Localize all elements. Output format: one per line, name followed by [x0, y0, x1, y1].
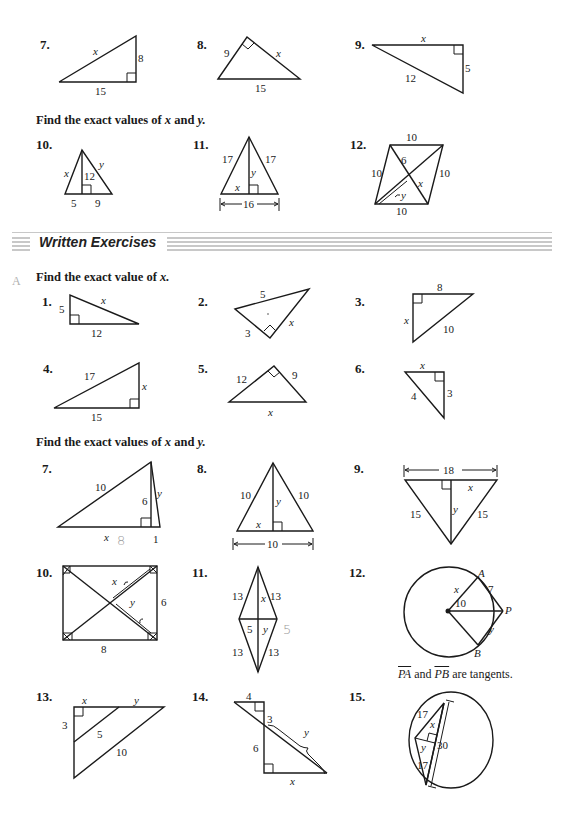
svg-text:x: x [419, 359, 425, 371]
triangle-diagram-9: 18 x 15 15 y [404, 464, 497, 544]
svg-text:8: 8 [437, 281, 443, 293]
triangle-diagram-3: 8 x 10 [403, 281, 473, 342]
svg-text:y: y [303, 726, 309, 738]
svg-text:10: 10 [95, 481, 107, 493]
svg-text:x: x [267, 406, 273, 418]
svg-text:x: x [81, 694, 87, 706]
svg-text:8: 8 [117, 533, 125, 548]
triangle-diagram-14: 4 3 6 y x [234, 690, 327, 787]
svg-text:x: x [429, 718, 435, 730]
svg-text:7: 7 [488, 583, 494, 595]
svg-text:x: x [234, 181, 240, 193]
svg-text:y: y [98, 158, 104, 170]
svg-text:13: 13 [232, 590, 244, 602]
svg-text:x: x [417, 177, 423, 189]
svg-text:10: 10 [406, 131, 418, 143]
svg-text:10: 10 [267, 538, 279, 550]
problem-number: 1. [42, 294, 52, 310]
svg-text:5: 5 [59, 303, 65, 315]
svg-text:17: 17 [222, 153, 234, 165]
svg-text:10: 10 [240, 489, 252, 501]
svg-text:5: 5 [465, 62, 471, 74]
conj: and [174, 435, 194, 449]
problem-number: 14. [192, 689, 208, 705]
svg-text:y: y [262, 623, 268, 635]
triangle-diagram-1: 5 x 12 [59, 294, 139, 339]
triangle-diagram-2: 5 3 x [235, 288, 309, 339]
svg-text:5: 5 [247, 623, 253, 635]
problem-number: 6. [355, 361, 365, 377]
svg-text:5: 5 [283, 622, 291, 637]
svg-text:12: 12 [236, 373, 247, 385]
svg-text:B: B [474, 647, 481, 659]
triangle-diagram-top-11: 17 17 y x 16 [220, 137, 279, 211]
svg-text:A: A [477, 567, 485, 579]
svg-text:4: 4 [246, 690, 252, 702]
problem-number: 15. [349, 689, 365, 705]
svg-text:3: 3 [447, 387, 453, 399]
var-x: x [165, 435, 171, 449]
banner-rule [12, 232, 552, 233]
section-title: Written Exercises [39, 234, 156, 250]
svg-text:9: 9 [224, 47, 230, 59]
svg-text:y: y [452, 503, 458, 515]
svg-text:12: 12 [405, 72, 416, 84]
svg-text:y: y [133, 694, 139, 706]
caption-rest: are tangents. [452, 667, 513, 681]
circle-tangent-diagram-12: A B P x 7 10 10 y [404, 567, 512, 659]
svg-text:6: 6 [253, 742, 259, 754]
svg-text:10: 10 [455, 597, 467, 609]
svg-text:x: x [141, 380, 147, 392]
svg-text:x: x [467, 481, 473, 493]
svg-text:8: 8 [101, 643, 107, 655]
svg-text:y: y [156, 487, 162, 499]
svg-text:30: 30 [437, 739, 449, 751]
problem-number: 4. [43, 361, 53, 377]
svg-text:5: 5 [260, 288, 266, 300]
svg-text:15: 15 [91, 411, 103, 423]
instruction-text: Find the exact values of x and y. [36, 435, 206, 450]
figure-caption: PA and PB are tangents. [398, 667, 513, 682]
instruction-label: Find the exact value of [36, 270, 157, 284]
conj: and [414, 667, 431, 681]
svg-text:13: 13 [232, 646, 244, 658]
kite-diagram-11: 13 13 13 13 x 5 y 5 [232, 567, 291, 672]
svg-text:10: 10 [396, 205, 408, 217]
triangle-diagram-top-9: x 5 12 [372, 32, 471, 93]
svg-text:x: x [420, 32, 426, 44]
svg-text:y: y [250, 166, 256, 178]
var-x: x [165, 113, 171, 127]
triangle-diagram-13: x y 3 5 10 [62, 694, 164, 778]
svg-text:17: 17 [265, 153, 277, 165]
problem-number: 11. [193, 137, 209, 153]
svg-text:12: 12 [91, 327, 102, 339]
svg-text:x: x [403, 314, 409, 326]
instruction-label: Find the exact values of [36, 435, 162, 449]
triangle-diagram-7: 10 6 y x 1 8 [58, 462, 162, 548]
svg-text:x: x [103, 531, 109, 543]
problem-number: 3. [355, 294, 365, 310]
triangle-diagram-top-8: 9 x 15 [218, 37, 300, 94]
rectangle-diagram-10: x y 6 8 [63, 566, 167, 655]
problem-number: 13. [36, 689, 52, 705]
svg-text:4: 4 [411, 390, 417, 402]
problem-number: 8. [197, 461, 207, 477]
svg-text:9: 9 [292, 369, 298, 381]
svg-text:3: 3 [245, 327, 251, 339]
svg-text:3: 3 [267, 713, 273, 725]
svg-text:18: 18 [443, 464, 455, 476]
svg-text:x: x [275, 47, 281, 59]
triangle-diagram-4: 17 x 15 [54, 363, 147, 423]
svg-text:10: 10 [116, 746, 128, 758]
svg-text:x: x [289, 775, 295, 787]
svg-text:5: 5 [97, 728, 103, 740]
conj: and [174, 113, 194, 127]
svg-text:x: x [111, 575, 117, 587]
svg-text:9: 9 [95, 197, 101, 209]
section-banner: Written Exercises [12, 234, 552, 254]
triangle-diagram-6: x 4 3 [405, 359, 453, 418]
instruction-label: Find the exact values of [36, 113, 162, 127]
svg-text:15: 15 [477, 508, 489, 520]
svg-text:17: 17 [84, 370, 96, 382]
problem-number: 7. [42, 461, 52, 477]
